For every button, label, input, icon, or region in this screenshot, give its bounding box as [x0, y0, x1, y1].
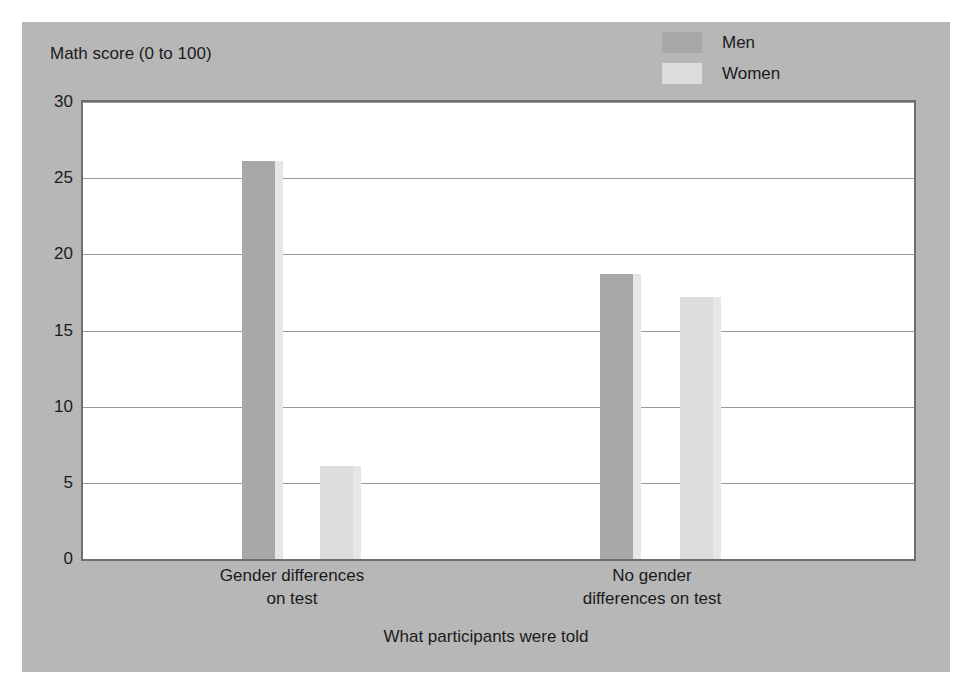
- x-axis-title: What participants were told: [22, 627, 950, 647]
- bar-body: [600, 274, 633, 559]
- legend-swatch-women: [662, 63, 702, 84]
- x-category-label-1-line-1: differences on test: [502, 588, 802, 611]
- x-category-label-0-line-0: Gender differences: [142, 565, 442, 588]
- bar-shadow: [275, 161, 283, 559]
- y-axis-title: Math score (0 to 100): [50, 44, 212, 64]
- bar-women-group-0[interactable]: [320, 466, 361, 559]
- figure-panel: Math score (0 to 100) 051015202530 Men W…: [22, 22, 950, 672]
- x-category-label-0: Gender differences on test: [142, 565, 442, 611]
- bar-shadow: [633, 274, 641, 559]
- y-tick-label-10: 10: [54, 397, 73, 417]
- y-tick-label-5: 5: [64, 473, 73, 493]
- legend-item-men[interactable]: Men: [662, 32, 780, 53]
- legend-label-men: Men: [722, 33, 755, 53]
- y-tick-label-15: 15: [54, 321, 73, 341]
- y-tick-label-0: 0: [64, 549, 73, 569]
- bar-shadow: [353, 466, 361, 559]
- legend-label-women: Women: [722, 64, 780, 84]
- gridline-30: [83, 102, 914, 103]
- gridline-15: [83, 331, 914, 332]
- chart-legend: Men Women: [662, 32, 780, 94]
- bar-body: [242, 161, 275, 559]
- gridline-10: [83, 407, 914, 408]
- x-category-label-1: No gender differences on test: [502, 565, 802, 611]
- gridline-5: [83, 483, 914, 484]
- gridline-20: [83, 254, 914, 255]
- legend-swatch-men: [662, 32, 702, 53]
- legend-item-women[interactable]: Women: [662, 63, 780, 84]
- bar-shadow: [713, 297, 721, 559]
- bar-body: [680, 297, 713, 559]
- gridline-25: [83, 178, 914, 179]
- y-tick-label-20: 20: [54, 244, 73, 264]
- x-category-label-0-line-1: on test: [142, 588, 442, 611]
- x-category-label-1-line-0: No gender: [502, 565, 802, 588]
- y-tick-label-30: 30: [54, 92, 73, 112]
- bar-men-group-0[interactable]: [242, 161, 283, 559]
- y-tick-label-25: 25: [54, 168, 73, 188]
- plot-area: 051015202530: [81, 100, 916, 561]
- bar-men-group-1[interactable]: [600, 274, 641, 559]
- bar-women-group-1[interactable]: [680, 297, 721, 559]
- bar-body: [320, 466, 353, 559]
